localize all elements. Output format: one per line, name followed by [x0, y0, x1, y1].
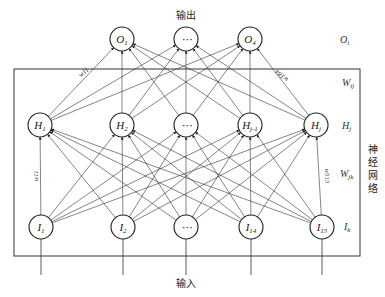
output-node-ellipsis: ⋯: [174, 27, 198, 51]
input-node-14: I14: [239, 215, 263, 239]
output-side-label: Oi: [340, 34, 349, 47]
neural-network-diagram: O1⋯O4 H1H2⋯Hj-1Hj I1I2⋯I14I15 输出 输入 Oi W…: [0, 0, 385, 297]
input-side-label: Ik: [343, 221, 351, 234]
weight-w11-top: w11: [77, 66, 91, 79]
neural-network-label: 神 经 网 络: [368, 143, 378, 194]
hidden-layer: H1H2⋯Hj-1Hj: [28, 113, 328, 137]
weight-w515: w515: [323, 168, 331, 184]
output-title: 输出: [176, 9, 196, 21]
hidden-node-ellipsis: ⋯: [174, 113, 198, 137]
svg-text:⋯: ⋯: [181, 221, 192, 233]
hidden-output-connections: [48, 44, 308, 121]
hidden-node-j: Hj: [304, 113, 328, 137]
wij-side-label: Wij: [342, 77, 354, 90]
input-node-2: I2: [111, 215, 135, 239]
hidden-node-j-1: Hj-1: [238, 113, 262, 137]
svg-text:络: 络: [368, 182, 378, 194]
wjk-side-label: Wjk: [340, 168, 354, 181]
input-node-1: I1: [29, 215, 53, 239]
hidden-side-label: Hj: [341, 120, 351, 133]
output-layer: O1⋯O4: [110, 27, 262, 51]
output-node-1: O1: [110, 27, 134, 51]
input-node-ellipsis: ⋯: [174, 215, 198, 239]
svg-text:网: 网: [368, 170, 378, 181]
svg-text:⋯: ⋯: [181, 119, 192, 131]
output-node-4: O4: [238, 27, 262, 51]
input-title: 输入: [176, 277, 196, 289]
hidden-node-1: H1: [28, 113, 52, 137]
input-lines: [41, 239, 322, 275]
svg-text:⋯: ⋯: [181, 33, 192, 45]
input-layer: I1I2⋯I14I15: [29, 215, 334, 239]
svg-text:神: 神: [368, 143, 378, 155]
input-node-15: I15: [310, 215, 334, 239]
svg-text:经: 经: [368, 156, 378, 168]
weight-w184: w184: [273, 67, 290, 83]
hidden-node-2: H2: [110, 113, 134, 137]
weight-w11-bottom: w11: [32, 170, 40, 181]
input-hidden-connections: [40, 129, 321, 223]
